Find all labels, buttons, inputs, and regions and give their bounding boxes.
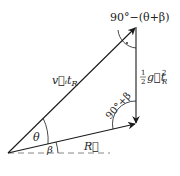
top-angle-arc (118, 30, 136, 48)
svg-text:1: 1 (141, 69, 145, 77)
top-angle-label: 90°−(θ+β) (110, 11, 170, 24)
theta-angle-arc (43, 118, 48, 144)
theta-label: θ (33, 131, 40, 144)
beta-angle-arc (56, 142, 58, 153)
svg-text:R: R (161, 78, 168, 86)
svg-text:2: 2 (162, 69, 166, 77)
top-angle-dot (126, 42, 128, 44)
range-vector-arrow (8, 124, 135, 153)
svg-text:2: 2 (141, 78, 145, 86)
range-vector-label: R⃗ (83, 140, 99, 153)
vector-triangle-diagram: 90°−(θ+β) v⃗ᵢtR 1 2 g⃗t 2 R 90°+β R⃗ θ β (0, 0, 180, 176)
bottom-right-angle-label: 90°+β (103, 90, 133, 121)
beta-label: β (46, 144, 53, 155)
velocity-vector-label: v⃗ᵢtR (52, 74, 77, 88)
gravity-vector-label: 1 2 g⃗t 2 R (140, 69, 168, 86)
velocity-vector-arrow (8, 28, 135, 153)
